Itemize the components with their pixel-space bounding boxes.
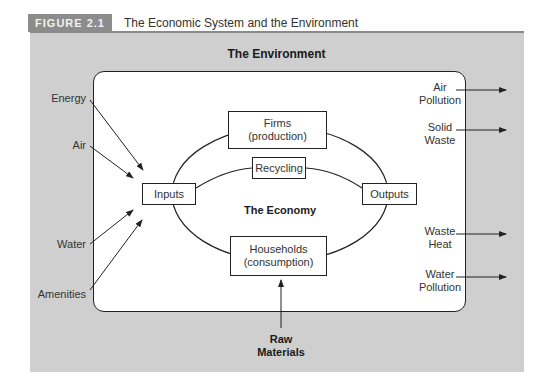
inputs-label: Inputs — [154, 188, 184, 201]
amenities-arrow — [90, 220, 142, 290]
energy-arrow — [90, 100, 143, 170]
input-label-air: Air — [30, 139, 86, 152]
output-line2: Pollution — [410, 94, 470, 107]
output-line2: Waste — [410, 134, 470, 147]
output-line1: Solid — [410, 121, 470, 134]
recycling-label: Recycling — [255, 162, 303, 175]
output-label-solid-waste: Solid Waste — [410, 121, 470, 147]
households-label: Households — [249, 243, 307, 256]
output-line1: Waste — [410, 225, 470, 238]
water-arrow — [90, 210, 133, 244]
output-label-water-pollution: Water Pollution — [410, 268, 470, 294]
input-label-energy: Energy — [30, 92, 86, 105]
raw-materials-line2: Materials — [241, 346, 321, 359]
output-line1: Water — [410, 268, 470, 281]
output-line2: Pollution — [410, 281, 470, 294]
output-line1: Air — [410, 81, 470, 94]
outputs-node: Outputs — [362, 183, 417, 205]
inputs-node: Inputs — [142, 183, 196, 205]
air-arrow — [90, 146, 133, 178]
firms-node: Firms (production) — [228, 111, 327, 149]
raw-materials-label: Raw Materials — [241, 333, 321, 359]
recycling-node: Recycling — [252, 157, 306, 179]
output-label-waste-heat: Waste Heat — [410, 225, 470, 251]
households-node: Households (consumption) — [230, 236, 327, 276]
firms-sublabel: (production) — [248, 130, 307, 143]
input-label-amenities: Amenities — [20, 288, 86, 301]
economy-title: The Economy — [244, 204, 316, 217]
firms-label: Firms — [264, 117, 292, 130]
diagram-connectors — [0, 0, 553, 389]
recycling-loop — [196, 168, 252, 188]
outputs-label: Outputs — [370, 188, 409, 201]
input-label-water: Water — [30, 238, 86, 251]
output-line2: Heat — [410, 238, 470, 251]
output-label-air-pollution: Air Pollution — [410, 81, 470, 107]
raw-materials-line1: Raw — [241, 333, 321, 346]
households-sublabel: (consumption) — [244, 256, 314, 269]
